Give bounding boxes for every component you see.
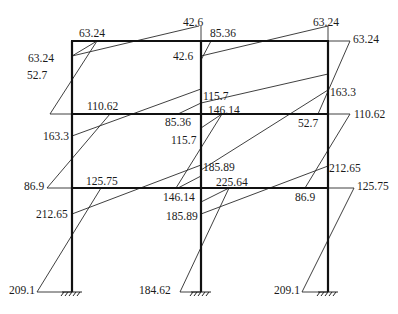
moment-line <box>201 90 328 170</box>
moment-value-label: 125.75 <box>357 180 389 192</box>
fixed-support-icon <box>317 292 338 296</box>
moment-value-label: 146.14 <box>208 104 240 116</box>
moment-value-label: 52.7 <box>27 69 47 81</box>
moment-line <box>178 176 201 188</box>
moment-line <box>180 188 229 292</box>
moment-value-label: 115.7 <box>203 90 228 102</box>
moment-value-label: 86.9 <box>24 180 44 192</box>
moment-value-label: 52.7 <box>298 117 318 129</box>
moment-line <box>201 166 328 214</box>
moment-value-label: 225.64 <box>216 176 248 188</box>
moment-value-label: 209.1 <box>274 284 300 296</box>
moment-line <box>72 165 201 214</box>
moment-value-label: 125.75 <box>86 175 118 187</box>
moment-value-label: 184.62 <box>139 284 171 296</box>
moment-line <box>201 188 229 202</box>
moment-line <box>178 103 201 114</box>
moment-value-label: 85.36 <box>210 27 236 39</box>
moment-value-label: 63.24 <box>313 16 339 28</box>
moment-value-label: 86.9 <box>295 191 315 203</box>
moment-line <box>318 41 350 114</box>
moment-value-label: 42.6 <box>173 50 193 62</box>
moment-value-label: 185.89 <box>203 161 235 173</box>
moment-line <box>37 188 101 292</box>
moment-value-label: 85.36 <box>165 116 191 128</box>
moment-value-label: 110.62 <box>87 100 118 112</box>
moment-value-label: 63.24 <box>79 27 105 39</box>
frame-members <box>71 41 329 292</box>
moment-value-label: 212.65 <box>36 208 68 220</box>
moment-value-label: 110.62 <box>354 108 385 120</box>
moment-value-label: 209.1 <box>9 284 35 296</box>
moment-value-label: 42.6 <box>183 16 203 28</box>
fixed-support-icon <box>61 292 82 296</box>
moment-value-label: 63.24 <box>353 33 379 45</box>
moment-value-label: 163.3 <box>43 130 69 142</box>
moment-diagram-lines <box>37 26 354 292</box>
moment-value-label: 163.3 <box>330 86 356 98</box>
moment-line <box>201 114 222 128</box>
moment-line <box>201 41 211 60</box>
moment-value-label: 146.14 <box>163 191 195 203</box>
moment-value-label: 115.7 <box>171 134 196 146</box>
moment-value-label: 63.24 <box>28 52 54 64</box>
moment-value-label: 212.65 <box>329 162 361 174</box>
frame-moment-diagram <box>0 0 398 314</box>
moment-line <box>72 41 97 56</box>
moment-value-label: 185.89 <box>166 210 198 222</box>
fixed-support-icon <box>190 292 211 296</box>
